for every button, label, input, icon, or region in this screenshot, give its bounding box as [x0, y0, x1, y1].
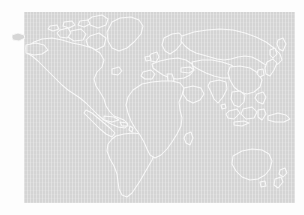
ireland-outline: [145, 56, 151, 61]
map-panel: [24, 12, 295, 203]
world-map-svg: [24, 12, 295, 203]
sri-lanka-outline: [221, 104, 226, 109]
aleutian-wraparound-outline: [12, 33, 25, 41]
world-map-image: [0, 0, 304, 215]
left-spur-svg: [12, 33, 25, 42]
left-edge-landmass-spur: [12, 33, 25, 42]
victoria-island-outline: [68, 29, 86, 41]
hispaniola-outline: [120, 122, 128, 126]
tasmania-outline: [260, 181, 266, 187]
arctic-islet-c-outline: [48, 25, 59, 31]
